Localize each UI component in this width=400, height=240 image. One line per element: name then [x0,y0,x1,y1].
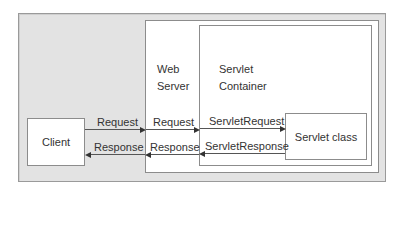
web-server-label-line2: Server [157,78,189,95]
arrow-servlet-to-container [205,153,285,154]
web-server-label-line1: Web [157,61,189,78]
servlet-container-label: Servlet Container [219,61,267,95]
servlet-container-label-line1: Servlet [219,61,267,78]
arrow-head-left-icon [199,151,205,157]
servlet-container-label-line2: Container [219,78,267,95]
arrow-head-right-icon [280,126,286,132]
servlet-class-node: Servlet class [285,113,367,160]
client-label: Client [42,136,70,148]
web-server-label: Web Server [157,61,189,95]
arrow-client-to-webserver [85,129,141,130]
edge-label-servlet-response: ServletResponse [205,139,289,154]
arrow-container-to-servlet [200,128,280,129]
arrow-head-left-icon [145,152,151,158]
edge-label-web-response: Response [150,140,200,155]
arrow-container-to-webserver [151,154,199,155]
arrow-head-right-icon [140,127,146,133]
edge-label-web-request: Request [153,115,194,130]
arrow-webserver-to-container [146,129,194,130]
arrow-head-left-icon [85,152,91,158]
edge-label-client-request: Request [97,115,138,130]
servlet-class-label: Servlet class [295,131,357,143]
client-node: Client [27,118,85,166]
edge-label-client-response: Response [94,140,144,155]
arrow-webserver-to-client [91,154,145,155]
edge-label-servlet-request: ServletRequest [209,114,284,129]
